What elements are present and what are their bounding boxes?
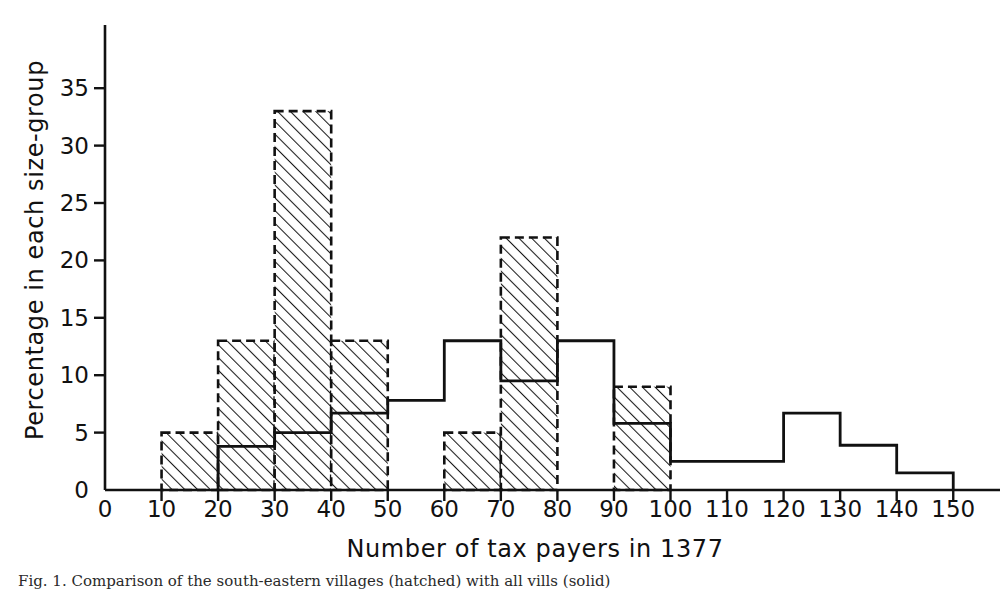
- hatched-bar: [331, 341, 388, 490]
- hatched-series-bars: [162, 111, 671, 490]
- hatched-bar: [218, 341, 275, 490]
- hatched-bar: [162, 433, 219, 490]
- hatched-bar: [501, 237, 558, 490]
- hatched-bar: [444, 433, 501, 490]
- hatched-bar: [614, 387, 671, 490]
